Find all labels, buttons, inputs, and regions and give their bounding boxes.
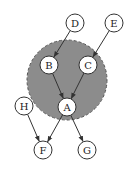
node-label: B <box>45 60 52 71</box>
edge-H-F <box>28 114 40 141</box>
node-label: G <box>83 145 91 156</box>
node-label: D <box>71 18 79 29</box>
edge-E-C <box>93 31 110 58</box>
node-D: D <box>66 14 84 32</box>
node-label: A <box>62 102 71 113</box>
node-B: B <box>40 56 58 74</box>
node-C: C <box>79 56 97 74</box>
node-F: F <box>34 141 52 159</box>
node-label: C <box>84 60 92 71</box>
node-E: E <box>105 14 123 32</box>
edge-A-F <box>47 115 62 142</box>
node-A: A <box>58 98 76 116</box>
graph-diagram: DEBCAHFG <box>0 0 139 170</box>
node-label: F <box>40 145 47 156</box>
node-label: H <box>20 101 29 112</box>
node-label: E <box>110 18 117 29</box>
node-G: G <box>78 141 96 159</box>
node-H: H <box>15 97 33 115</box>
